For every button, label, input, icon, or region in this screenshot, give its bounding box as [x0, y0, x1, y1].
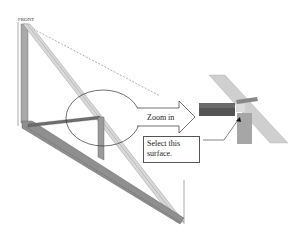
zoom-in-label: Zoom in [147, 113, 174, 122]
zoomed-detail [199, 75, 288, 144]
truss-diagram: FRONT Zoom in Select this surface. [0, 0, 303, 232]
construction-line [24, 24, 160, 96]
front-view-label: FRONT [18, 17, 34, 22]
leader-line [203, 120, 238, 140]
select-surface-note: Select this surface. [143, 136, 200, 163]
vertical-strut [98, 117, 104, 160]
cross-brace [28, 116, 100, 127]
vertical-post-left [21, 24, 28, 123]
